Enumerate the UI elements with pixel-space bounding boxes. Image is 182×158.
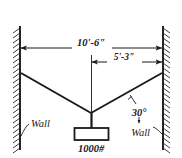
diagram-canvas: 10'-6" 5'-3" 30° 1000# Wall Wall (0, 0, 182, 158)
left-wall (13, 26, 20, 153)
cable-angle-label: 30° (131, 107, 148, 118)
left-wall-leader (21, 124, 29, 136)
right-wall-label: Wall (131, 127, 150, 138)
load-label: 1000# (78, 143, 105, 154)
half-span-dimension (92, 55, 163, 113)
left-wall-label: Wall (31, 118, 50, 129)
angle-leader-line (130, 95, 136, 104)
right-wall-leader (153, 127, 162, 134)
right-cable (91, 73, 162, 113)
left-cable (21, 73, 91, 113)
overall-span-label: 10'-6" (77, 37, 105, 48)
right-wall-hatching (163, 28, 170, 153)
angle-leader-tick (128, 97, 132, 100)
suspended-load-assembly (75, 113, 109, 140)
load-block (75, 128, 109, 140)
half-span-label: 5'-3" (114, 52, 135, 62)
left-wall-hatching (13, 28, 20, 153)
angle-leader-arrow (138, 120, 141, 124)
right-wall (163, 26, 170, 153)
statics-diagram: 10'-6" 5'-3" 30° 1000# Wall Wall (0, 0, 182, 158)
